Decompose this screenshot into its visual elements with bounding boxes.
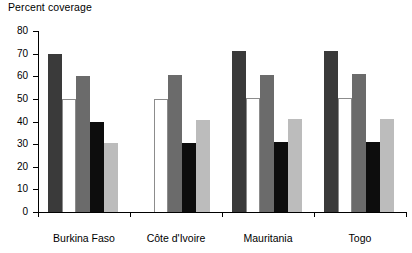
bar — [48, 54, 62, 212]
bar — [260, 75, 274, 212]
bar-group — [48, 31, 118, 212]
chart-title: Percent coverage — [8, 1, 92, 13]
bar — [104, 143, 118, 212]
x-tick — [38, 212, 39, 217]
bar — [380, 119, 394, 212]
x-tick — [130, 212, 131, 217]
bar — [62, 99, 76, 212]
bar — [274, 142, 288, 212]
bar-group — [140, 31, 210, 212]
bar — [232, 51, 246, 212]
y-tick-label-10: 10 — [2, 184, 28, 194]
x-axis-label: Togo — [314, 232, 406, 244]
bar — [366, 142, 380, 212]
bar — [352, 74, 366, 212]
y-tick-label-80: 80 — [2, 26, 28, 36]
x-tick — [406, 212, 407, 217]
y-tick-label-0: 0 — [2, 207, 28, 217]
bar — [76, 76, 90, 212]
y-tick-label-70: 70 — [2, 49, 28, 59]
y-tick-label-40: 40 — [2, 117, 28, 127]
y-tick-label-20: 20 — [2, 162, 28, 172]
y-tick-label-30: 30 — [2, 139, 28, 149]
bar — [288, 119, 302, 212]
bar — [90, 122, 104, 213]
x-tick — [314, 212, 315, 217]
bar-group — [232, 31, 302, 212]
bar — [246, 98, 260, 212]
bar-chart: Percent coverage 01020304050607080 Burki… — [0, 0, 412, 253]
bar — [338, 98, 352, 212]
bar-group — [324, 31, 394, 212]
x-axis-label: Côte d'Ivoire — [130, 232, 222, 244]
x-axis-label: Mauritania — [222, 232, 314, 244]
y-tick-label-60: 60 — [2, 71, 28, 81]
bar-groups — [38, 31, 406, 212]
x-axis-label: Burkina Faso — [38, 232, 130, 244]
x-tick — [222, 212, 223, 217]
bar — [168, 75, 182, 212]
bar — [324, 51, 338, 212]
bar — [182, 143, 196, 212]
y-tick-label-50: 50 — [2, 94, 28, 104]
bar — [154, 99, 168, 212]
bar — [196, 120, 210, 212]
